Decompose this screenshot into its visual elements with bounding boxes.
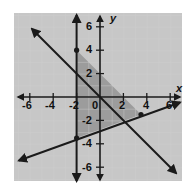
x-axis-label: x xyxy=(176,82,182,94)
y-axis-label: y xyxy=(110,12,116,24)
y-tick-label-4: 4 xyxy=(86,44,92,55)
y-tick-label--2: -2 xyxy=(82,115,92,126)
vertex-point-right xyxy=(138,112,143,117)
y-tick-label--6: -6 xyxy=(82,162,92,173)
plot-canvas xyxy=(0,0,196,194)
y-tick-label-6: 6 xyxy=(86,21,92,32)
x-tick-label-2: 2 xyxy=(119,100,125,111)
x-tick-label--6: -6 xyxy=(22,100,32,111)
x-tick-label--4: -4 xyxy=(45,100,55,111)
vertex-point-bottom xyxy=(74,135,79,140)
y-tick-label-2: 2 xyxy=(86,68,92,79)
x-tick-label-4: 4 xyxy=(143,100,149,111)
vertex-point-top xyxy=(74,48,79,53)
x-tick-label-6: 6 xyxy=(166,100,172,111)
coordinate-graph: y x -6 -4 -2 0 2 4 6 6 4 2 -2 -4 -6 xyxy=(0,0,196,194)
x-tick-label-0: 0 xyxy=(92,100,98,111)
y-tick-label--4: -4 xyxy=(82,138,92,149)
x-tick-label--2: -2 xyxy=(69,100,79,111)
